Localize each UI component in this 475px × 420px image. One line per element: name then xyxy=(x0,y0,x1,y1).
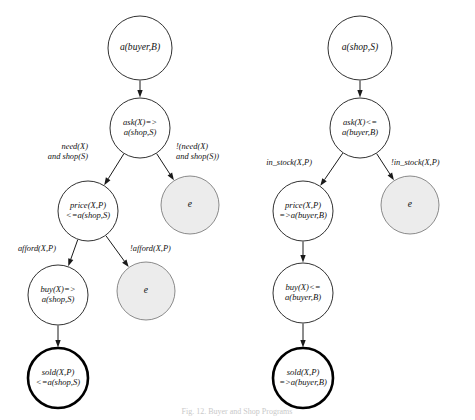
node-label-line: a(shop,S) xyxy=(342,41,379,53)
edge-label-line: !afford(X,P) xyxy=(130,244,171,253)
edge-label-line: and shop(S) xyxy=(48,152,88,161)
arrowhead-icon xyxy=(122,259,129,267)
edge-edge-price-to-buy xyxy=(300,242,305,263)
edge-edge-buy-to-sold xyxy=(300,324,305,348)
node-label-line: e xyxy=(144,284,149,295)
figure-caption: Fig. 12. Buyer and Shop Programs xyxy=(182,407,293,416)
edge-edge-price-to-buy xyxy=(68,240,78,267)
node-a-buyer-b[interactable]: a(buyer,B) xyxy=(108,16,172,80)
node-label-line: <=a(shop,S) xyxy=(66,210,110,220)
node-label-line: price(X,P) xyxy=(69,200,106,210)
node-a-shop-s[interactable]: a(shop,S) xyxy=(328,16,392,80)
arrowhead-icon xyxy=(357,90,362,98)
edge-edge-price-to-empty-2 xyxy=(106,236,129,267)
edge-edge-ask-to-empty-1 xyxy=(157,154,174,181)
node-sold-x-p-from-a-shop-s[interactable]: sold(X,P)<=a(shop,S) xyxy=(28,348,88,408)
node-label-line: a(shop,S) xyxy=(124,127,157,137)
arrowhead-icon xyxy=(300,340,305,348)
edge-label-edge-ask-to-empty-1: !in_stock(X,P) xyxy=(391,158,440,167)
node-price-x-p-from-a-shop-s[interactable]: price(X,P)<=a(shop,S) xyxy=(58,181,118,241)
node-label-line: =>a(buyer,B) xyxy=(279,210,327,220)
node-label-line: e xyxy=(408,198,413,209)
edge-edge-buy-to-sold xyxy=(55,326,60,348)
edge-label-line: !(need(X) xyxy=(176,142,208,151)
edge-label-edge-price-to-empty-2: !afford(X,P) xyxy=(130,244,171,253)
edge-label-line: afford(X,P) xyxy=(18,244,56,253)
node-ask-x-to-a-shop-s[interactable]: ask(X)=>a(shop,S) xyxy=(110,98,170,158)
arrowhead-icon xyxy=(68,258,73,266)
arrowhead-icon xyxy=(388,172,394,180)
edge-label-edge-ask-to-empty-1: !(need(X)and shop(S)) xyxy=(176,142,219,161)
node-label-line: sold(X,P) xyxy=(42,367,75,377)
arrowhead-icon xyxy=(300,255,305,263)
node-label-line: buy(X)=> xyxy=(41,284,76,294)
edge-label-line: in_stock(X,P) xyxy=(266,158,312,167)
node-label-line: ask(X)=> xyxy=(123,117,157,127)
node-label-line: price(X,P) xyxy=(284,200,321,210)
edge-label-edge-ask-to-price: need(X)and shop(S) xyxy=(48,142,88,161)
arrowhead-icon xyxy=(320,178,326,186)
arrowhead-icon xyxy=(168,172,174,180)
node-empty-e-buyer-upper[interactable]: e xyxy=(161,176,219,234)
node-ask-x-from-a-buyer-b[interactable]: ask(X)<=a(buyer,B) xyxy=(330,98,390,158)
arrowhead-icon xyxy=(104,177,110,185)
node-label-line: <=a(shop,S) xyxy=(36,377,80,387)
edge-edge-root-to-ask xyxy=(137,81,142,98)
node-label-line: buy(X)<= xyxy=(286,282,321,292)
protocol-diagram-figure: a(buyer,B)ask(X)=>a(shop,S)price(X,P)<=a… xyxy=(0,0,475,420)
arrowhead-icon xyxy=(137,90,142,98)
node-label-line: a(buyer,B) xyxy=(120,41,160,53)
edge-label-line: and shop(S)) xyxy=(176,152,219,161)
node-label-line: a(buyer,B) xyxy=(285,292,321,302)
node-label-line: a(shop,S) xyxy=(42,294,75,304)
arrowhead-icon xyxy=(55,340,60,348)
node-label-line: ask(X)<= xyxy=(343,117,377,127)
edge-label-edge-ask-to-price: in_stock(X,P) xyxy=(266,158,312,167)
diagram-canvas: a(buyer,B)ask(X)=>a(shop,S)price(X,P)<=a… xyxy=(0,0,475,420)
node-label-line: =>a(buyer,B) xyxy=(279,377,327,387)
edge-edge-ask-to-price xyxy=(320,153,342,186)
node-label-line: a(buyer,B) xyxy=(342,127,378,137)
edge-label-line: need(X) xyxy=(61,142,88,151)
node-label-line: e xyxy=(188,198,193,209)
node-label-line: sold(X,P) xyxy=(287,367,320,377)
edge-label-edge-price-to-buy: afford(X,P) xyxy=(18,244,56,253)
edge-edge-root-to-ask xyxy=(357,81,362,98)
node-price-x-p-to-a-buyer-b[interactable]: price(X,P)=>a(buyer,B) xyxy=(273,181,333,241)
nodes-layer: a(buyer,B)ask(X)=>a(shop,S)price(X,P)<=a… xyxy=(28,16,439,408)
edge-label-line: !in_stock(X,P) xyxy=(391,158,440,167)
node-empty-e-buyer-lower[interactable]: e xyxy=(117,262,175,320)
edge-edge-ask-to-price xyxy=(104,154,124,185)
node-buy-x-from-a-buyer-b[interactable]: buy(X)<=a(buyer,B) xyxy=(273,263,333,323)
node-sold-x-p-to-a-buyer-b[interactable]: sold(X,P)=>a(buyer,B) xyxy=(273,348,333,408)
node-empty-e-shop[interactable]: e xyxy=(381,176,439,234)
node-buy-x-to-a-shop-s[interactable]: buy(X)=>a(shop,S) xyxy=(28,265,88,325)
